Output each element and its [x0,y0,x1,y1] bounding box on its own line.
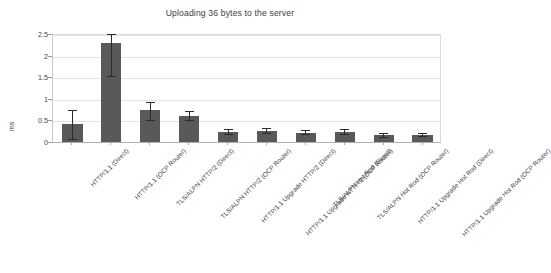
y-axis-tick-label: 0.5 [38,116,48,125]
error-bar-cap-upper [340,129,349,130]
error-bar-cap-upper [146,102,155,103]
bar-group [257,34,277,142]
x-axis-tick-label: TLS/ALPN HTTP/2 (Direct) [175,147,235,207]
x-axis-tick-mark [227,142,228,145]
error-bar-cap-upper [224,129,233,130]
error-bar-cap-lower [146,120,155,121]
x-axis-tick-mark [71,142,72,145]
error-bar-cap-lower [262,133,271,134]
x-axis-tick-mark [422,142,423,145]
x-axis-tick-mark [383,142,384,145]
bar-group [374,34,394,142]
error-bar-cap-upper [68,110,77,111]
error-bar-cap-upper [262,128,271,129]
x-axis-tick-mark [344,142,345,145]
y-axis-tick-labels: 00.511.522.5 [0,0,48,273]
bar-group [296,34,316,142]
plot-area [52,34,441,142]
bar-group [140,34,160,142]
error-bar-cap-lower [418,136,427,137]
error-bar-cap-upper [418,133,427,134]
error-bar-cap-upper [379,133,388,134]
error-bar-cap-lower [379,137,388,138]
y-axis-tick-label: 1.5 [38,73,48,82]
error-bar-line [111,34,112,76]
x-axis-tick-mark [110,142,111,145]
x-axis-tick-label: TLS/ALPN Hot Rod (Direct) [331,147,392,208]
error-bar-cap-upper [185,111,194,112]
error-bar-line [72,110,73,139]
bar-group [218,34,238,142]
bar-group [101,34,121,142]
error-bar-line [150,102,151,120]
bar-group [412,34,432,142]
x-axis-tick-mark [266,142,267,145]
x-axis-tick-label: TLS/ALPN HTTP/2 (OCP Router) [219,147,292,220]
x-axis-tick-label: HTTP/1.1 (OCP Router) [134,147,188,201]
chart-title: Uploading 36 bytes to the server [0,8,460,18]
y-axis-tick-label: 2.5 [38,30,48,39]
error-bar-cap-upper [301,130,310,131]
x-axis-tick-mark [149,142,150,145]
bar-group [62,34,82,142]
error-bar-cap-lower [340,134,349,135]
error-bar-cap-lower [68,139,77,140]
error-bar-cap-lower [301,134,310,135]
bar-group [335,34,355,142]
bar-group [179,34,199,142]
error-bar-cap-lower [224,134,233,135]
x-axis-tick-mark [305,142,306,145]
error-bar-cap-lower [107,76,116,77]
x-axis-tick-mark [188,142,189,145]
error-bar-line [189,111,190,121]
x-axis-tick-label: HTTP/1.1 (Direct) [89,147,130,188]
error-bar-cap-lower [185,120,194,121]
error-bar-cap-upper [107,34,116,35]
